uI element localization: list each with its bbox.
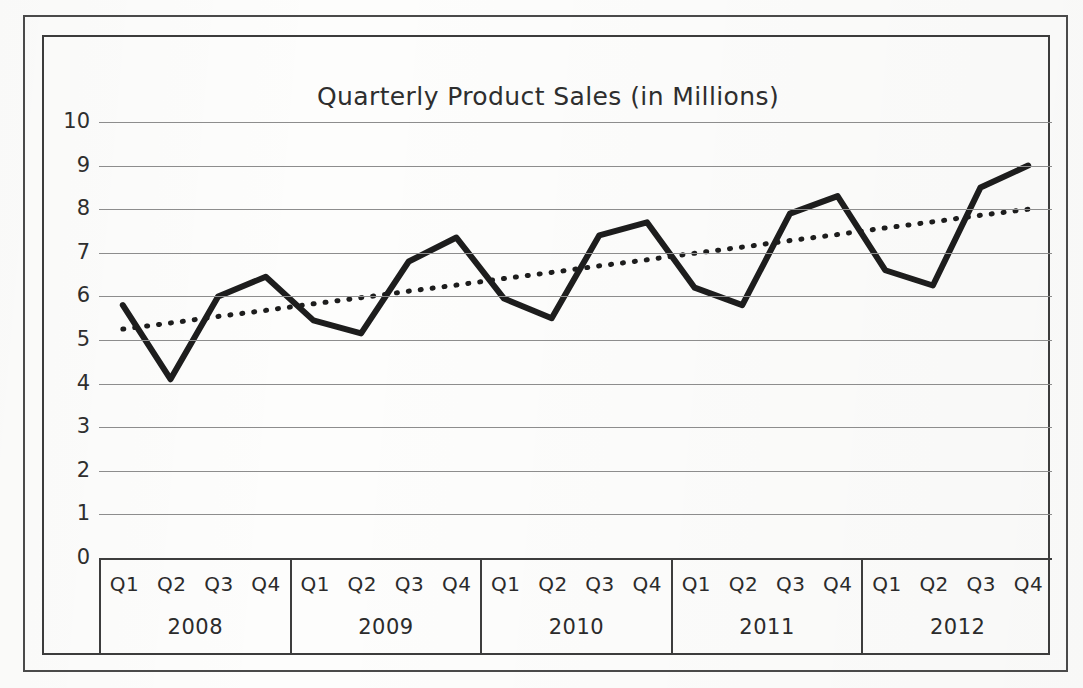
y-tick-label: 2 [48,460,90,481]
quarter-row: Q1Q2Q3Q4 [673,560,862,608]
x-axis-label-table: Q1Q2Q3Q42008Q1Q2Q3Q42009Q1Q2Q3Q42010Q1Q2… [99,558,1052,653]
chart-title: Quarterly Product Sales (in Millions) [44,82,1052,111]
gridline [99,427,1052,428]
gridline [99,384,1052,385]
chart-frame: Quarterly Product Sales (in Millions) 10… [42,35,1050,655]
year-group-2009: Q1Q2Q3Q42009 [292,560,483,653]
quarter-row: Q1Q2Q3Q4 [292,560,481,608]
gridline [99,296,1052,297]
x-tick-label-q2-2008: Q2 [148,572,195,596]
y-tick-label: 0 [48,547,90,568]
gridline [99,209,1052,210]
x-tick-label-q1-2012: Q1 [863,572,910,596]
year-group-2008: Q1Q2Q3Q42008 [101,560,292,653]
x-tick-label-q4-2011: Q4 [814,572,861,596]
y-tick-label: 9 [48,155,90,176]
y-tick-label: 4 [48,373,90,394]
x-axis-year-label: 2011 [673,608,862,653]
x-tick-label-q2-2011: Q2 [720,572,767,596]
chart-page: Quarterly Product Sales (in Millions) 10… [0,0,1083,688]
quarter-row: Q1Q2Q3Q4 [101,560,290,608]
x-tick-label-q3-2008: Q3 [195,572,242,596]
x-tick-label-q1-2009: Q1 [292,572,339,596]
gridline [99,122,1052,123]
gridline [99,166,1052,167]
y-tick-label: 5 [48,329,90,350]
year-group-2010: Q1Q2Q3Q42010 [482,560,673,653]
x-tick-label-q1-2011: Q1 [673,572,720,596]
quarter-row: Q1Q2Q3Q4 [482,560,671,608]
x-tick-label-q4-2009: Q4 [433,572,480,596]
x-tick-label-q2-2009: Q2 [339,572,386,596]
x-axis-year-label: 2012 [863,608,1052,653]
year-group-2011: Q1Q2Q3Q42011 [673,560,864,653]
y-tick-label: 6 [48,285,90,306]
y-tick-label: 1 [48,503,90,524]
year-group-2012: Q1Q2Q3Q42012 [863,560,1052,653]
x-tick-label-q3-2012: Q3 [958,572,1005,596]
y-tick-label: 3 [48,416,90,437]
plot-area [99,122,1052,558]
quarter-row: Q1Q2Q3Q4 [863,560,1052,608]
y-tick-label: 8 [48,198,90,219]
x-tick-label-q1-2010: Q1 [482,572,529,596]
x-tick-label-q3-2011: Q3 [767,572,814,596]
x-tick-label-q3-2010: Q3 [577,572,624,596]
x-tick-label-q4-2008: Q4 [242,572,289,596]
x-axis-year-label: 2010 [482,608,671,653]
y-tick-label: 7 [48,242,90,263]
gridline [99,514,1052,515]
y-axis: 109876543210 [44,122,90,558]
sales-line [123,166,1028,380]
gridline [99,253,1052,254]
gridline [99,471,1052,472]
x-axis-year-label: 2009 [292,608,481,653]
y-tick-label: 10 [48,111,90,132]
x-axis-year-label: 2008 [101,608,290,653]
gridline [99,340,1052,341]
x-tick-label-q2-2010: Q2 [529,572,576,596]
x-tick-label-q4-2010: Q4 [624,572,671,596]
x-tick-label-q3-2009: Q3 [386,572,433,596]
x-tick-label-q2-2012: Q2 [911,572,958,596]
trend-line [123,209,1028,329]
x-tick-label-q4-2012: Q4 [1005,572,1052,596]
x-tick-label-q1-2008: Q1 [101,572,148,596]
